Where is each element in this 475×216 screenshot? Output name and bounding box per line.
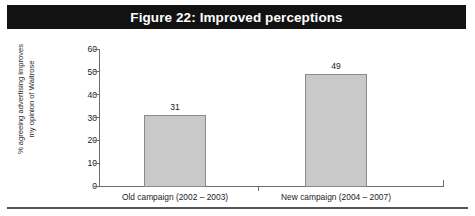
bar-value-new-campaign: 49 — [306, 61, 366, 71]
chart-plot-area: % agreeing advertising improves my opini… — [0, 32, 475, 216]
figure-container: Figure 22: Improved perceptions % agreei… — [0, 0, 475, 216]
y-tick-0: 0 — [0, 181, 108, 191]
y-tick-mark — [94, 94, 99, 95]
y-tick-20: 20 — [0, 135, 108, 145]
bar-new-campaign — [305, 74, 367, 187]
figure-title-bar: Figure 22: Improved perceptions — [7, 5, 466, 29]
bottom-divider — [7, 207, 468, 209]
y-tick-mark — [94, 117, 99, 118]
x-category-label-new-campaign: New campaign (2004 – 2007) — [246, 192, 426, 202]
x-category-divider-tick — [258, 186, 259, 191]
y-tick-mark — [94, 49, 99, 50]
y-tick-50: 50 — [0, 67, 108, 77]
x-axis-end-tick — [443, 180, 444, 187]
y-tick-mark — [94, 140, 99, 141]
bar-value-old-campaign: 31 — [145, 102, 205, 112]
page-title: Figure 22: Improved perceptions — [7, 10, 466, 25]
x-category-label-old-campaign: Old campaign (2002 – 2003) — [85, 192, 265, 202]
y-tick-10: 10 — [0, 158, 108, 168]
y-tick-30: 30 — [0, 113, 108, 123]
y-tick-mark — [94, 186, 99, 187]
y-tick-mark — [94, 163, 99, 164]
y-tick-mark — [94, 71, 99, 72]
bar-old-campaign — [144, 115, 206, 187]
y-tick-40: 40 — [0, 90, 108, 100]
y-tick-60: 60 — [0, 44, 108, 54]
